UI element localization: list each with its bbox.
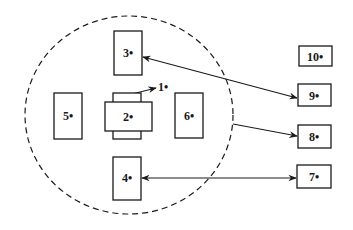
block-label-7: 7• [309,170,319,184]
block-label-1: 1• [158,80,168,94]
block-3: 3• [114,31,142,75]
connector-arrow-6-8 [233,124,297,136]
diagram-canvas: 1•2•3•4•5•6•7•8•9•10• [0,0,353,230]
block-9: 9• [298,84,331,106]
connectors [132,57,297,178]
block-label-10: 10• [307,50,323,64]
block-label-3: 3• [123,46,133,60]
boxes: 1•2•3•4•5•6•7•8•9•10• [54,31,332,200]
block-label-9: 9• [309,89,319,103]
diagram-svg: 1•2•3•4•5•6•7•8•9•10• [0,0,353,230]
block-8: 8• [298,125,331,148]
block-label-8: 8• [309,130,319,144]
block-5: 5• [54,93,82,139]
block-4: 4• [113,157,141,200]
block-10: 10• [299,46,332,66]
block-label-2: 2• [123,110,133,124]
block-label-4: 4• [122,171,132,185]
block-2: 2• [105,102,152,131]
block-7: 7• [297,165,331,188]
block-label-6: 6• [184,109,194,123]
block-6: 6• [175,93,203,138]
block-label-5: 5• [63,109,73,123]
